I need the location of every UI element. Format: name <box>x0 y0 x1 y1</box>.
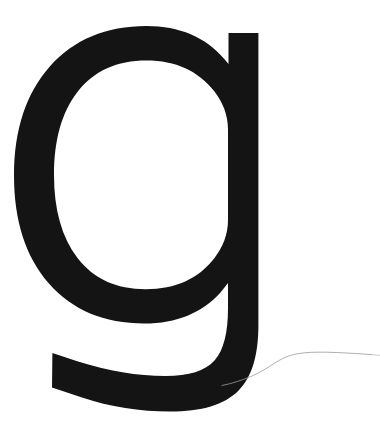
glyph-stage <box>0 0 380 441</box>
glyph-canvas <box>0 0 380 441</box>
specimen-page: g latin-small-letter-g single-storey-san… <box>0 0 380 441</box>
